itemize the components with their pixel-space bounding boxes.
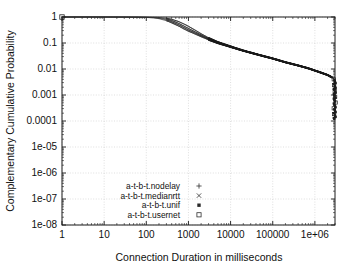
legend-label: a-t-b-t.usernet (127, 210, 180, 220)
legend-filled-square-icon (197, 204, 200, 207)
tail-marker (335, 92, 337, 94)
ccdf-log-log-plot: 1101001000100001000001e+06 10.10.010.001… (0, 0, 349, 271)
x-tick-label: 10 (99, 229, 111, 240)
y-tick-label: 0.1 (43, 37, 57, 48)
y-tick-label: 1e-06 (31, 167, 57, 178)
y-axis-label: Complementary Cumulative Probability (4, 30, 16, 212)
x-tick-label: 1e+06 (301, 229, 330, 240)
y-tick-label: 0.001 (32, 89, 57, 100)
legend-label: a-t-b-t.medianrtt (120, 191, 180, 201)
legend-label: a-t-b-t.nodelay (126, 181, 181, 191)
x-tick-label: 10000 (217, 229, 245, 240)
x-tick-label: 1 (59, 229, 65, 240)
x-axis-label: Connection Duration in milliseconds (116, 251, 283, 263)
y-tick-label: 1e-08 (31, 219, 57, 230)
legend-label: a-t-b-t.unif (142, 200, 181, 210)
tail-marker (335, 116, 337, 118)
tail-marker (335, 87, 337, 89)
y-tick-label: 0.01 (38, 63, 58, 74)
chart-figure: 1101001000100001000001e+06 10.10.010.001… (0, 0, 349, 271)
tail-marker (335, 97, 337, 99)
y-tick-label: 1 (51, 11, 57, 22)
x-tick-label: 100 (138, 229, 155, 240)
x-tick-labels: 1101001000100001000001e+06 (59, 229, 329, 240)
y-tick-label: 0.0001 (26, 115, 57, 126)
x-tick-label: 100000 (256, 229, 290, 240)
y-tick-label: 1e-07 (31, 193, 57, 204)
y-tick-label: 1e-05 (31, 141, 57, 152)
x-tick-label: 1000 (177, 229, 200, 240)
tail-marker (333, 118, 335, 120)
